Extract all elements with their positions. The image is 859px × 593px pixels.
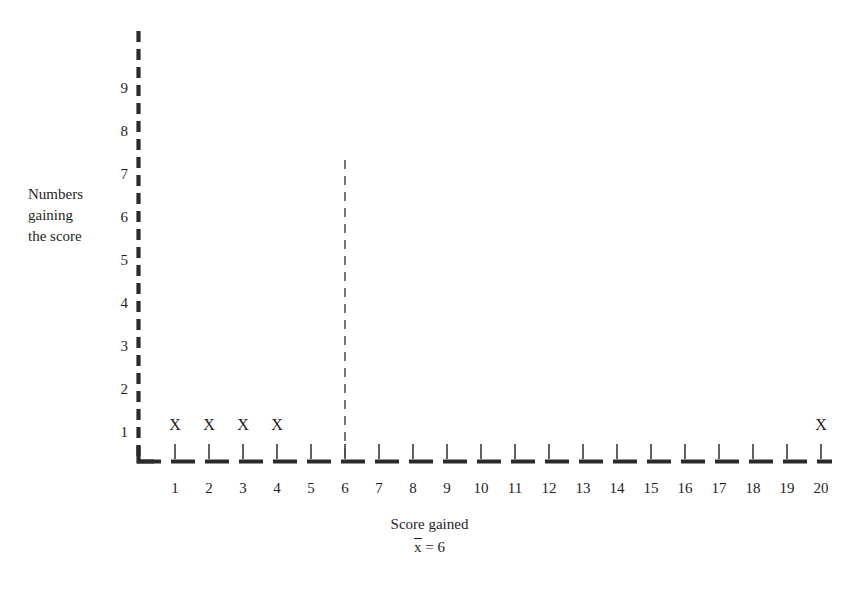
- x-tick-label-20: 20: [806, 481, 836, 496]
- x-tick-label-6: 6: [330, 481, 360, 496]
- data-point-marker: X: [231, 417, 255, 433]
- y-tick-label-4: 4: [108, 296, 128, 311]
- x-tick-label-16: 16: [670, 481, 700, 496]
- y-tick-label-1: 1: [108, 425, 128, 440]
- x-tick-label-7: 7: [364, 481, 394, 496]
- y-tick-label-7: 7: [108, 167, 128, 182]
- x-tick-label-2: 2: [194, 481, 224, 496]
- x-tick-label-18: 18: [738, 481, 768, 496]
- x-axis-title: Score gained: [0, 513, 859, 536]
- y-tick-label-8: 8: [108, 124, 128, 139]
- x-tick-label-5: 5: [296, 481, 326, 496]
- x-axis-ticks: [175, 444, 821, 459]
- x-tick-label-10: 10: [466, 481, 496, 496]
- x-tick-label-4: 4: [262, 481, 292, 496]
- y-tick-label-2: 2: [108, 382, 128, 397]
- x-tick-label-9: 9: [432, 481, 462, 496]
- x-tick-label-13: 13: [568, 481, 598, 496]
- data-point-marker: X: [809, 417, 833, 433]
- x-tick-label-11: 11: [500, 481, 530, 496]
- y-tick-label-6: 6: [108, 210, 128, 225]
- y-tick-label-9: 9: [108, 81, 128, 96]
- x-tick-label-1: 1: [160, 481, 190, 496]
- data-point-marker: X: [163, 417, 187, 433]
- x-tick-label-17: 17: [704, 481, 734, 496]
- mean-symbol: x: [414, 538, 422, 555]
- x-tick-label-3: 3: [228, 481, 258, 496]
- y-tick-label-3: 3: [108, 339, 128, 354]
- mean-equation: = 6: [422, 539, 445, 555]
- y-tick-label-5: 5: [108, 253, 128, 268]
- x-tick-label-15: 15: [636, 481, 666, 496]
- x-tick-label-12: 12: [534, 481, 564, 496]
- chart-caption: Score gained x = 6: [0, 513, 859, 559]
- data-point-marker: X: [197, 417, 221, 433]
- x-tick-label-14: 14: [602, 481, 632, 496]
- x-tick-label-19: 19: [772, 481, 802, 496]
- axis-origin-corner: [139, 446, 155, 462]
- plot-canvas: [0, 0, 859, 593]
- data-point-marker: X: [265, 417, 289, 433]
- mean-annotation: x = 6: [0, 536, 859, 559]
- chart-figure: Numbers gaining the score: [0, 0, 859, 593]
- x-tick-label-8: 8: [398, 481, 428, 496]
